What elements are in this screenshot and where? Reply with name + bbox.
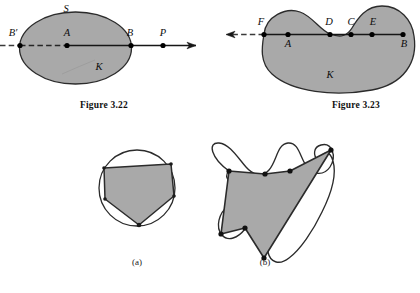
label-b-prime: B′ [9,27,18,38]
label-k-region-323: K [325,69,334,80]
polygon-vertex [287,168,292,173]
caption-subfigure-b: (b) [260,257,271,267]
polygon-vertex [169,162,173,166]
figure-3-23-group: F A D C E B K Figure 3.23 [226,6,415,110]
label-e: E [369,16,377,27]
label-b-323: B [401,38,408,49]
polygon-vertex [218,231,223,236]
polygon-vertex [328,147,333,152]
figure-3-22-group: B′ A B P S K Figure 3.22 [0,3,196,110]
label-d: D [324,16,333,27]
point-p [160,43,165,48]
point-a [64,43,69,48]
polygon-vertex [137,223,142,228]
polygon-vertex [172,194,176,198]
point-b-prime [17,43,22,48]
label-a: A [63,27,71,38]
label-p: P [159,27,167,38]
label-f: F [257,16,265,27]
polygon-vertex [102,166,106,170]
figure-3-24-b-group: (b) [212,140,337,267]
point-b-323 [400,32,405,37]
point-d [327,32,332,37]
caption-subfigure-a: (a) [132,257,142,267]
polygon-vertex [242,225,247,230]
polygon-vertex [262,171,267,176]
label-k-region-322: K [94,61,103,72]
caption-figure-3-23: Figure 3.23 [332,100,380,110]
caption-figure-3-22: Figure 3.22 [80,100,128,110]
polygon-vertex [226,168,231,173]
label-c: C [347,16,355,27]
label-s-boundary: S [63,3,69,14]
point-b [128,43,133,48]
kidney-region-k [262,6,414,93]
point-c [348,32,353,37]
point-a-323 [285,32,290,37]
point-f [261,32,266,37]
label-b: B [127,27,134,38]
figures-canvas: B′ A B P S K Figure 3.22 F A D C E B K [0,0,420,293]
figure-3-24-a-group: (a) [99,150,176,267]
label-a-323: A [284,38,292,49]
polygon-vertex [103,197,107,201]
point-e [369,32,374,37]
figure-sheet: B′ A B P S K Figure 3.22 F A D C E B K [0,0,420,293]
ellipse-region-k [20,12,132,84]
